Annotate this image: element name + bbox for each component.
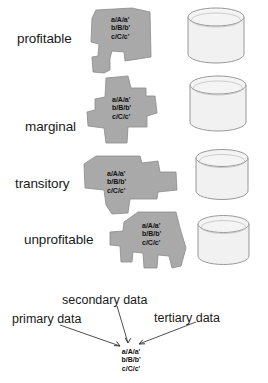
- data-line-a: a/A/a': [142, 222, 161, 230]
- cylinder-transitory: [196, 150, 248, 200]
- polygon-data-text-profitable: a/A/a' b/B/b' c/C/c': [111, 16, 130, 41]
- cylinder-unprofitable: [198, 216, 249, 265]
- data-line-a: a/A/a': [107, 170, 126, 178]
- arrow-secondary: [117, 306, 128, 343]
- data-line-b: b/B/b': [106, 356, 156, 364]
- data-line-a: a/A/a': [112, 96, 131, 104]
- data-line-c: c/C/c': [111, 33, 130, 41]
- cylinder-profitable: [188, 8, 244, 63]
- data-line-c: c/C/c': [142, 239, 161, 247]
- legend-label-primary: primary data: [12, 312, 81, 326]
- polygon-data-text-marginal: a/A/a' b/B/b' c/C/c': [112, 96, 131, 121]
- legend-label-tertiary: tertiary data: [154, 311, 220, 325]
- data-line-c: c/C/c': [112, 113, 131, 121]
- legend-label-secondary: secondary data: [62, 293, 147, 307]
- polygon-transitory: [84, 156, 177, 214]
- polygon-data-text-transitory: a/A/a' b/B/b' c/C/c': [107, 170, 126, 195]
- arrow-tertiary: [139, 322, 196, 344]
- data-line-c: c/C/c': [107, 187, 126, 195]
- data-line-b: b/B/b': [107, 178, 126, 186]
- data-line-b: b/B/b': [111, 24, 130, 32]
- data-line-c: c/C/c': [106, 365, 156, 373]
- arrow-primary: [60, 325, 120, 346]
- row-label-unprofitable: unprofitable: [24, 232, 93, 247]
- data-line-b: b/B/b': [112, 104, 131, 112]
- polygon-data-text-unprofitable: a/A/a' b/B/b' c/C/c': [142, 222, 161, 247]
- row-label-marginal: marginal: [25, 119, 76, 134]
- cylinder-marginal: [190, 76, 246, 131]
- data-line-a: a/A/a': [111, 16, 130, 24]
- diagram-canvas: profitable marginal transitory unprofita…: [0, 0, 268, 383]
- data-line-a: a/A/a': [106, 348, 156, 356]
- row-label-profitable: profitable: [17, 31, 72, 46]
- legend-target-data-text: a/A/a' b/B/b' c/C/c': [106, 348, 156, 373]
- data-line-b: b/B/b': [142, 230, 161, 238]
- row-label-transitory: transitory: [15, 176, 70, 191]
